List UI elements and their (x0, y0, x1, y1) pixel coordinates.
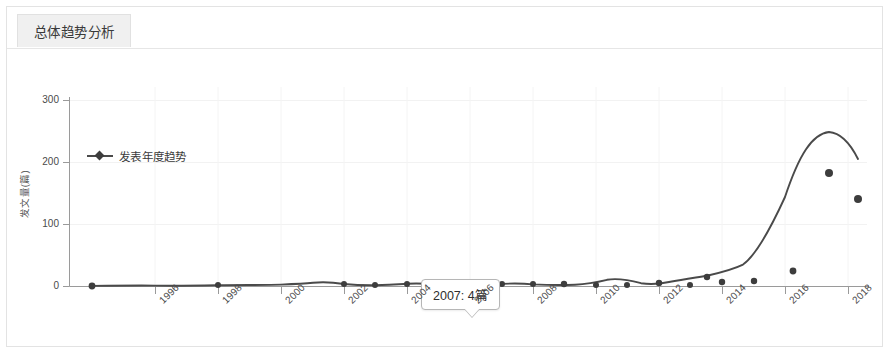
y-tick-label: 100 (29, 218, 59, 229)
tab-label: 总体趋势分析 (34, 21, 114, 41)
legend-label: 发表年度趋势 (119, 148, 187, 164)
data-point-markers (89, 169, 862, 289)
chart-legend: 发表年度趋势 (87, 148, 187, 164)
trend-analysis-panel: 总体趋势分析 (6, 6, 883, 347)
y-tick-label: 0 (29, 280, 59, 291)
tab-strip: 总体趋势分析 (7, 7, 882, 49)
grid-horizontal (69, 101, 867, 225)
y-axis (63, 97, 70, 287)
legend-line-marker-icon (87, 151, 113, 161)
grid-vertical (155, 87, 848, 286)
y-axis-title: 发文量(篇) (17, 149, 31, 239)
trend-line (92, 132, 858, 286)
y-tick-label: 300 (29, 94, 59, 105)
trend-chart: 300 200 100 0 发文量(篇) 发表年度趋势 2007: 4篇 199… (7, 49, 884, 347)
y-tick-label: 200 (29, 156, 59, 167)
tooltip-tail-fill-icon (464, 308, 480, 317)
tab-overall-trend-analysis[interactable]: 总体趋势分析 (17, 14, 131, 47)
